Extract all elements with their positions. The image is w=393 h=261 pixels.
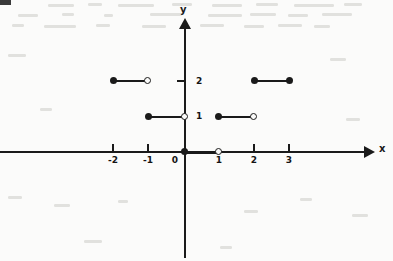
scan-artifact-overlay — [0, 0, 393, 261]
endpoint-open-x-0-y1 — [181, 113, 188, 120]
x-tick-mark--1 — [147, 144, 149, 151]
y-tick-mark-2 — [177, 80, 184, 82]
segment-y1-right — [219, 116, 254, 118]
x-axis-arrow-icon — [364, 146, 375, 158]
endpoint-filled-x-3-y2 — [286, 77, 293, 84]
x-tick-label-1: 1 — [214, 155, 224, 165]
endpoint-filled-x--1-y1 — [145, 113, 152, 120]
endpoint-filled-x-0-y0 — [181, 148, 188, 155]
step-function-figure: x y -2 -1 0 1 2 3 2 1 — [0, 0, 393, 261]
endpoint-open-x-1-y0 — [215, 148, 222, 155]
endpoint-filled-x-1-y1 — [215, 113, 222, 120]
y-axis-arrow-icon — [179, 18, 191, 29]
endpoint-open-x--1-y2 — [144, 77, 151, 84]
endpoint-filled-x-2-y2 — [251, 77, 258, 84]
segment-y1-left — [149, 116, 185, 118]
x-tick-mark-2 — [253, 144, 255, 151]
x-tick-mark-3 — [288, 144, 290, 151]
segment-y2-right — [255, 80, 290, 82]
x-tick-label-3: 3 — [284, 155, 294, 165]
scan-corner-mark — [0, 0, 11, 5]
x-tick-label-0: 0 — [170, 155, 180, 165]
segment-y0 — [185, 151, 219, 154]
y-tick-label-2: 2 — [196, 76, 202, 86]
y-axis-label: y — [180, 4, 187, 15]
segment-y2-left — [113, 80, 148, 82]
endpoint-filled-x--2-y2 — [110, 77, 117, 84]
endpoint-open-x-2-y1 — [250, 113, 257, 120]
x-tick-mark--2 — [112, 144, 114, 151]
x-tick-label-2: 2 — [249, 155, 259, 165]
x-tick-label--2: -2 — [105, 155, 121, 165]
y-axis-line — [184, 28, 186, 258]
x-axis-label: x — [379, 143, 385, 154]
y-tick-label-1: 1 — [196, 111, 202, 121]
x-tick-label--1: -1 — [140, 155, 156, 165]
